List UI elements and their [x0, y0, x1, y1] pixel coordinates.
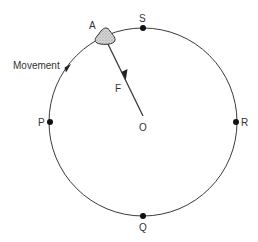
force-line	[106, 40, 143, 116]
point-r	[233, 119, 239, 125]
point-p	[47, 119, 53, 125]
label-q: Q	[139, 222, 147, 233]
label-a: A	[89, 20, 96, 31]
label-o: O	[139, 122, 147, 133]
label-movement: Movement	[13, 60, 60, 71]
circular-motion-diagram: A S Movement F P O R Q	[0, 0, 258, 242]
label-r: R	[241, 117, 248, 128]
point-s	[140, 25, 146, 31]
label-s: S	[139, 13, 146, 24]
point-q	[140, 213, 146, 219]
stone-icon	[95, 28, 115, 44]
label-p: P	[38, 117, 45, 128]
label-f: F	[115, 83, 121, 94]
